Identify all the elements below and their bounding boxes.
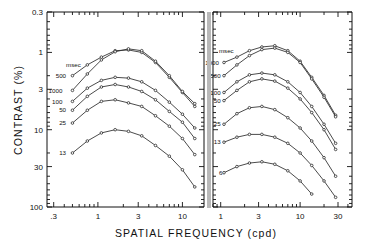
x-tick-label: 3 <box>136 212 141 221</box>
data-point <box>323 180 326 183</box>
data-point <box>299 98 302 101</box>
data-point <box>181 137 184 140</box>
data-point <box>100 86 103 89</box>
data-point <box>274 80 277 83</box>
data-point <box>248 49 251 52</box>
series-label-100: 100 <box>52 98 63 105</box>
data-point <box>193 186 196 189</box>
data-point <box>261 105 264 108</box>
data-point <box>168 125 171 128</box>
data-point <box>71 74 74 77</box>
data-point <box>223 74 226 77</box>
data-point <box>236 89 239 92</box>
data-point <box>274 136 277 139</box>
data-point <box>323 156 326 159</box>
data-point <box>261 160 264 163</box>
data-point <box>181 168 184 171</box>
data-point <box>274 47 277 50</box>
data-point <box>100 132 103 135</box>
data-point <box>287 142 290 145</box>
series-label-13: 13 <box>59 149 66 156</box>
data-point <box>223 91 226 94</box>
data-point <box>334 196 337 199</box>
data-point <box>223 61 226 64</box>
x-tick-label: 30 <box>334 212 343 221</box>
data-point <box>287 169 290 172</box>
data-point <box>334 148 337 151</box>
data-point <box>193 102 196 105</box>
data-point <box>127 130 130 133</box>
data-point <box>86 140 89 143</box>
data-point <box>236 56 239 59</box>
y-tick-label: 10 <box>34 126 43 135</box>
x-axis-title: SPATIAL FREQUENCY (cpd) <box>115 227 277 239</box>
y-tick-label: 30 <box>34 163 43 172</box>
data-point <box>154 114 157 117</box>
data-point <box>223 141 226 144</box>
data-point <box>323 128 326 131</box>
data-point <box>71 122 74 125</box>
data-point <box>261 133 264 136</box>
data-point <box>248 74 251 77</box>
data-point <box>193 127 196 130</box>
series-label-500: 500 <box>210 72 221 79</box>
data-point <box>140 105 143 108</box>
data-point <box>100 100 103 103</box>
data-point <box>114 98 117 101</box>
data-point <box>114 76 117 79</box>
figure-container: .313100.3131030100msec500100010050251313… <box>0 0 369 244</box>
data-point <box>310 78 313 81</box>
data-point <box>299 180 302 183</box>
data-point <box>114 83 117 86</box>
data-point <box>299 91 302 94</box>
divider-band <box>207 12 211 208</box>
data-point <box>140 49 143 52</box>
data-point <box>236 136 239 139</box>
data-point <box>168 74 171 77</box>
x-tick-label: 1 <box>218 212 223 221</box>
y-axis-title: CONTRAST (%) <box>12 65 24 155</box>
x-tick-label: 10 <box>178 212 187 221</box>
data-point <box>181 121 184 124</box>
data-point <box>140 90 143 93</box>
data-point <box>223 99 226 102</box>
x-tick-label: 1 <box>96 212 101 221</box>
data-point <box>114 50 117 53</box>
data-point <box>71 100 74 103</box>
data-point <box>287 116 290 119</box>
data-point <box>223 123 226 126</box>
data-point <box>274 74 277 77</box>
data-point <box>323 96 326 99</box>
data-point <box>181 90 184 93</box>
contrast-vs-spatial-frequency-chart: .313100.3131030100msec500100010050251313… <box>0 0 369 244</box>
data-point <box>310 193 313 196</box>
data-point <box>168 110 171 113</box>
data-point <box>274 163 277 166</box>
series-label-50: 50 <box>214 97 221 104</box>
data-point <box>140 81 143 84</box>
data-point <box>86 73 89 76</box>
data-point <box>236 112 239 115</box>
series-label-13: 13 <box>214 138 221 145</box>
y-tick-label: 100 <box>30 203 44 212</box>
data-point <box>310 164 313 167</box>
data-point <box>86 109 89 112</box>
data-point <box>100 56 103 59</box>
x-tick-label: 3 <box>256 212 261 221</box>
data-point <box>274 108 277 111</box>
data-point <box>248 162 251 165</box>
data-point <box>71 89 74 92</box>
x-tick-label: 10 <box>296 212 305 221</box>
data-point <box>223 171 226 174</box>
data-point <box>310 140 313 143</box>
data-point <box>71 152 74 155</box>
series-label-25: 25 <box>214 120 221 127</box>
data-point <box>299 61 302 64</box>
data-point <box>193 137 196 140</box>
data-point <box>248 54 251 57</box>
data-point <box>310 111 313 114</box>
data-point <box>261 48 264 51</box>
data-point <box>154 60 157 63</box>
data-point <box>236 165 239 168</box>
data-point <box>86 64 89 67</box>
